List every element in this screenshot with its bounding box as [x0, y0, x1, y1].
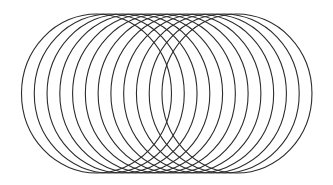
overlapping-circles-pattern [0, 0, 333, 185]
